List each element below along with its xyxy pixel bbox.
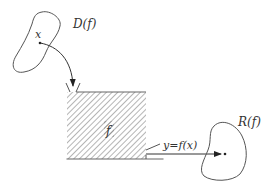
input-arrow bbox=[40, 43, 73, 86]
function-machine-diagram: x D(f) f y=f(x) R(f) bbox=[0, 0, 271, 185]
domain-label: D(f) bbox=[72, 17, 97, 31]
input-label: x bbox=[35, 28, 42, 41]
output-spout bbox=[146, 144, 160, 159]
range-set-blob bbox=[201, 122, 246, 180]
output-point bbox=[224, 153, 227, 156]
output-label: y=f(x) bbox=[162, 139, 197, 152]
domain-set-blob bbox=[13, 12, 60, 73]
range-label: R(f) bbox=[237, 115, 261, 129]
